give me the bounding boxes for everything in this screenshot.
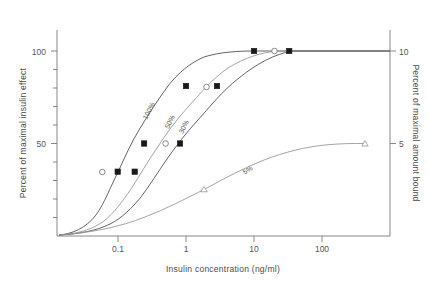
chart-svg: 100 50 10 5 0.1 1 10 100 Insulin concent… (0, 0, 429, 283)
y-right-axis-title: Percent of maximal amount bound (411, 64, 421, 201)
plot-frame (57, 30, 390, 236)
y-right-tick-label-5: 5 (399, 139, 404, 149)
insulin-dose-response-chart: 100 50 10 5 0.1 1 10 100 Insulin concent… (0, 0, 429, 283)
right-axis-ticks (390, 51, 396, 144)
y-right-tick-label-10: 10 (399, 47, 409, 57)
curve-label-50-percent: 50% (163, 114, 176, 130)
curve-label-30-percent: 30% (177, 119, 190, 135)
x-axis-title: Insulin concentration (ng/ml) (166, 264, 280, 274)
y-left-tick-label-100: 100 (32, 47, 46, 57)
markers-50-percent (100, 48, 278, 175)
curve-30-percent (59, 51, 390, 235)
x-axis-ticks (118, 236, 322, 242)
curve-50-percent (59, 51, 390, 235)
curve-5-percent-binding (59, 143, 366, 235)
y-left-tick-label-50: 50 (37, 139, 47, 149)
curve-label-100-percent: 100% (141, 101, 156, 120)
curve-100-percent (59, 51, 390, 235)
x-tick-label-1: 1 (184, 244, 189, 254)
left-axis-ticks (51, 51, 57, 218)
markers-30-percent (132, 48, 292, 174)
curve-label-5-percent: 5% (241, 164, 253, 175)
x-tick-label-10: 10 (249, 244, 259, 254)
x-tick-label-0.1: 0.1 (112, 244, 124, 254)
x-tick-label-100: 100 (315, 244, 329, 254)
markers-5-percent-binding (201, 141, 368, 192)
y-left-axis-title: Percent of maximal insulin effect (18, 67, 28, 198)
